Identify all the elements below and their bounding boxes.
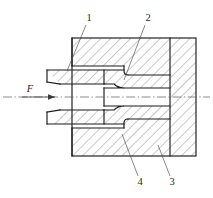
callout-label-2: 2 — [145, 12, 150, 23]
cross-section-figure: F 1 2 3 4 — [0, 0, 213, 198]
nose-taper-top — [47, 82, 60, 84]
callout-label-3: 3 — [169, 176, 174, 187]
callout-label-1: 1 — [86, 12, 91, 23]
force-label: F — [26, 83, 34, 94]
technical-drawing-canvas: F 1 2 3 4 — [0, 0, 213, 198]
sleeve-lower-hatch — [47, 110, 104, 124]
force-arrowhead — [48, 94, 55, 100]
callout-label-4: 4 — [137, 176, 143, 187]
force-arrow — [22, 94, 55, 100]
sleeve-upper-hatch — [47, 70, 104, 84]
nose-taper-bottom — [47, 110, 60, 112]
